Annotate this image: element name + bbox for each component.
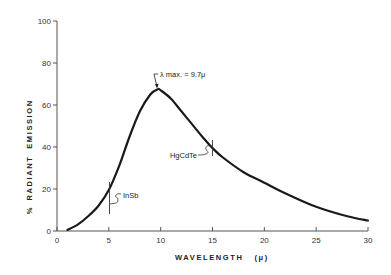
- y-axis-title-percent: %: [25, 206, 34, 214]
- emission-curve: [67, 89, 368, 230]
- peak-arrow-icon: [155, 84, 159, 89]
- y-tick-label: 0: [47, 227, 52, 236]
- y-axis-title-emission: EMISSION: [25, 99, 34, 148]
- y-tick-label: 20: [42, 185, 51, 194]
- tick-labels: 051015202530020406080100: [38, 17, 373, 245]
- x-tick-label: 5: [107, 236, 112, 245]
- y-tick-label: 100: [38, 17, 52, 26]
- x-tick-label: 30: [364, 236, 373, 245]
- x-axis-title: WAVELENGTH (μ): [175, 253, 269, 262]
- x-tick-label: 10: [156, 236, 165, 245]
- x-tick-label: 20: [260, 236, 269, 245]
- insb-label: InSb: [123, 191, 138, 200]
- radiant-emission-chart: 051015202530020406080100 WAVELENGTH (μ) …: [0, 0, 391, 275]
- insb-leader-line: [110, 194, 121, 204]
- y-tick-label: 40: [42, 143, 51, 152]
- hgcdte-leader-line: [198, 146, 212, 155]
- y-axis-title-radiant: RADIANT: [25, 156, 34, 201]
- axes: [53, 21, 368, 231]
- y-tick-label: 80: [42, 59, 51, 68]
- x-tick-label: 15: [208, 236, 217, 245]
- x-tick-label: 0: [55, 236, 60, 245]
- y-tick-label: 60: [42, 101, 51, 110]
- x-tick-label: 25: [312, 236, 321, 245]
- peak-label: λ max. = 9.7μ: [160, 70, 205, 79]
- hgcdte-label: HgCdTe: [170, 151, 197, 160]
